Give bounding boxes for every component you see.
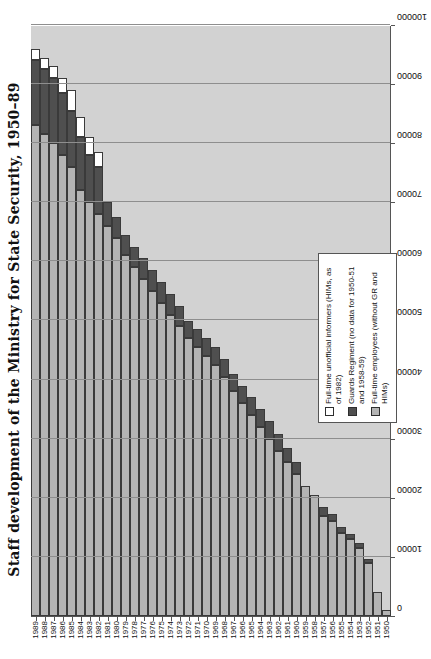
- bar-segment: [319, 507, 328, 516]
- bar-segment: [274, 451, 283, 616]
- bar-segment: [67, 90, 76, 111]
- bar-segment: [148, 270, 157, 291]
- bar-segment: [157, 282, 166, 303]
- bar-segment: [103, 202, 112, 226]
- value-tick-label: 40000: [397, 367, 422, 377]
- bar-segment: [139, 279, 148, 616]
- category-label: 1961: [283, 621, 292, 639]
- bar-row: [319, 507, 328, 616]
- bar-row: [337, 527, 346, 616]
- bar-segment: [94, 167, 103, 214]
- gridline: [31, 142, 390, 143]
- bar-segment: [247, 397, 256, 415]
- bar-segment: [31, 49, 40, 61]
- category-label: 1989: [31, 621, 40, 639]
- category-label: 1951: [373, 621, 382, 639]
- bar-segment: [166, 294, 175, 315]
- value-tick-label: 10000: [397, 544, 422, 554]
- gridline: [31, 201, 390, 202]
- category-label: 1955: [337, 621, 346, 639]
- bar-segment: [355, 543, 364, 548]
- bar-segment: [130, 247, 139, 268]
- bar-segment: [76, 117, 85, 138]
- bar-row: [220, 359, 229, 616]
- bar-row: [184, 321, 193, 616]
- bar-segment: [220, 359, 229, 377]
- category-label: 1980: [112, 621, 121, 639]
- bar-segment: [58, 155, 67, 616]
- bar-segment: [256, 409, 265, 427]
- category-label: 1977: [139, 621, 148, 639]
- bar-row: [355, 543, 364, 616]
- bar-row: [301, 486, 310, 616]
- value-tick-label: 60000: [397, 248, 422, 258]
- category-label: 1981: [103, 621, 112, 639]
- bar-row: [76, 117, 85, 616]
- bar-row: [382, 610, 391, 616]
- bar-segment: [202, 338, 211, 356]
- bar-segment: [40, 58, 49, 70]
- bar-segment: [121, 256, 130, 617]
- category-label: 1986: [58, 621, 67, 639]
- value-tick: [391, 25, 395, 26]
- category-label: 1976: [148, 621, 157, 639]
- value-tick-label: 80000: [397, 130, 422, 140]
- bar-segment: [139, 258, 148, 279]
- category-label: 1978: [130, 621, 139, 639]
- category-label: 1979: [121, 621, 130, 639]
- bar-segment: [175, 326, 184, 616]
- category-label: 1968: [220, 621, 229, 639]
- gridline: [31, 497, 390, 498]
- bar-segment: [256, 427, 265, 616]
- bar-segment: [346, 534, 355, 539]
- category-label: 1987: [49, 621, 58, 639]
- bar-segment: [346, 539, 355, 616]
- bar-segment: [265, 439, 274, 616]
- category-label: 1957: [319, 621, 328, 639]
- bar-segment: [49, 78, 58, 143]
- bar-segment: [382, 610, 391, 616]
- category-label: 1969: [211, 621, 220, 639]
- legend-item-employees: Full-time employees (without GR and HIMs…: [370, 260, 390, 416]
- value-tick: [391, 143, 395, 144]
- bar-segment: [283, 448, 292, 463]
- bar-segment: [373, 592, 382, 616]
- category-label: 1972: [184, 621, 193, 639]
- category-label: 1953: [355, 621, 364, 639]
- category-label: 1982: [94, 621, 103, 639]
- bar-segment: [292, 462, 301, 474]
- bar-segment: [301, 486, 310, 616]
- bar-row: [166, 294, 175, 616]
- category-label: 1985: [67, 621, 76, 639]
- bar-segment: [85, 202, 94, 616]
- bar-segment: [328, 514, 337, 521]
- bar-row: [265, 421, 274, 616]
- bar-row: [283, 448, 292, 616]
- category-label: 1973: [175, 621, 184, 639]
- category-label: 1970: [202, 621, 211, 639]
- bar-row: [103, 202, 112, 616]
- bar-row: [148, 270, 157, 616]
- bar-segment: [328, 521, 337, 616]
- bar-segment: [157, 303, 166, 616]
- category-label: 1952: [364, 621, 373, 639]
- value-tick-label: 70000: [397, 189, 422, 199]
- bar-segment: [238, 403, 247, 616]
- bar-segment: [58, 93, 67, 155]
- bar-segment: [238, 386, 247, 404]
- category-label: 1965: [247, 621, 256, 639]
- value-tick-label: 30000: [397, 426, 422, 436]
- category-label: 1954: [346, 621, 355, 639]
- bar-segment: [202, 356, 211, 616]
- bar-segment: [49, 66, 58, 78]
- value-tick: [391, 202, 395, 203]
- bar-segment: [193, 329, 202, 347]
- bar-row: [130, 247, 139, 616]
- category-label: 1962: [274, 621, 283, 639]
- bar-row: [202, 338, 211, 616]
- bar-segment: [364, 559, 373, 563]
- legend-swatch-him-icon: [325, 407, 334, 416]
- bar-segment: [85, 137, 94, 155]
- bar-segment: [40, 134, 49, 616]
- bar-segment: [112, 217, 121, 238]
